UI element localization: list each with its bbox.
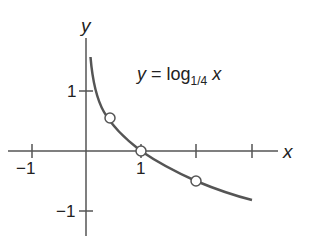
y-tick-label-1: 1	[67, 83, 76, 100]
graph: y x y = log1/4 x −1 1 1 −1	[0, 0, 314, 247]
plot-area	[0, 0, 314, 247]
x-tick-label-neg1: −1	[16, 160, 35, 177]
x-axis-label: x	[283, 142, 293, 161]
x-tick-label-1: 1	[136, 160, 145, 177]
eq-y: y	[137, 64, 146, 84]
point-one-zero	[136, 146, 146, 156]
point-two-neg-half	[191, 176, 201, 186]
eq-x: x	[212, 64, 221, 84]
y-axis-label: y	[81, 16, 91, 35]
y-tick-label-neg1: −1	[56, 203, 75, 220]
equation-label: y = log1/4 x	[137, 64, 221, 88]
eq-log: = log	[146, 64, 191, 84]
point-half-half	[105, 113, 115, 123]
eq-base: 1/4	[191, 74, 208, 88]
